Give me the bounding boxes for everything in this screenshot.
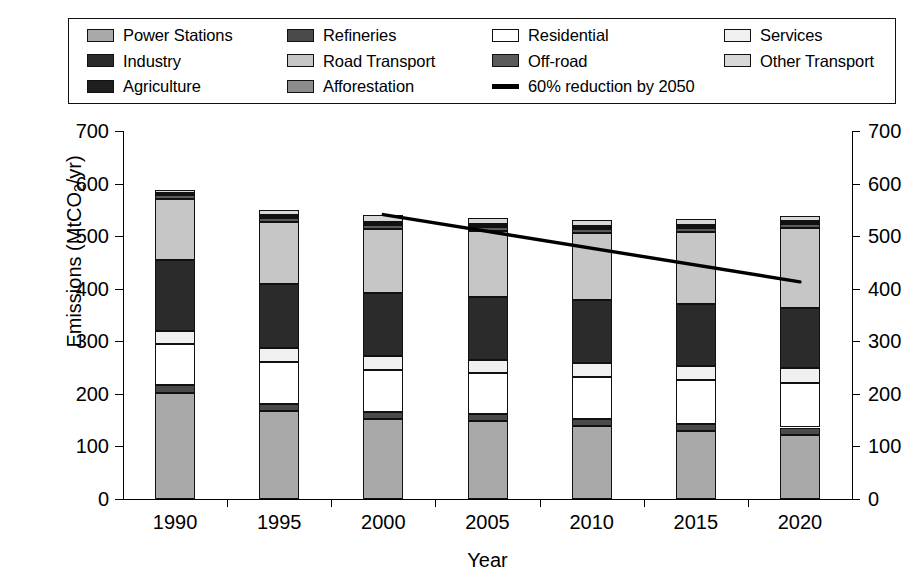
y-tick-label-right: 500 bbox=[868, 226, 901, 246]
bar-segment-afforestation bbox=[468, 224, 508, 226]
y-axis-left bbox=[123, 131, 124, 499]
legend-swatch-icon bbox=[87, 29, 114, 42]
y-tick-label-right: 100 bbox=[868, 436, 901, 456]
x-tick bbox=[644, 499, 645, 507]
bar-segment-industry bbox=[780, 308, 820, 367]
y-tick-right bbox=[852, 341, 860, 342]
bar-segment-services bbox=[259, 348, 299, 362]
y-tick-right bbox=[852, 499, 860, 500]
bar-segment-road-transport bbox=[468, 231, 508, 297]
bar-segment-road-transport bbox=[363, 229, 403, 293]
legend-item-residential[interactable]: Residential bbox=[492, 27, 724, 44]
bar-segment-other-transport bbox=[572, 220, 612, 225]
legend-swatch-icon bbox=[287, 54, 314, 67]
bar-segment-services bbox=[676, 366, 716, 380]
legend-item-refineries[interactable]: Refineries bbox=[287, 27, 492, 44]
y-tick-left bbox=[115, 131, 123, 132]
legend-item-power-stations[interactable]: Power Stations bbox=[87, 27, 287, 44]
bar-segment-off-road bbox=[572, 229, 612, 233]
x-tick bbox=[227, 499, 228, 507]
bar-segment-refineries bbox=[259, 404, 299, 411]
legend-grid: Power StationsRefineriesResidentialServi… bbox=[69, 19, 895, 103]
legend-item-services[interactable]: Services bbox=[724, 27, 895, 44]
bar-2005[interactable] bbox=[468, 131, 508, 499]
bar-segment-other-transport bbox=[155, 190, 195, 192]
legend-item-off-road[interactable]: Off-road bbox=[492, 53, 724, 70]
bar-segment-afforestation bbox=[363, 222, 403, 224]
bar-segment-refineries bbox=[572, 419, 612, 426]
bar-segment-road-transport bbox=[780, 228, 820, 308]
bar-segment-services bbox=[780, 368, 820, 383]
bar-segment-afforestation bbox=[155, 193, 195, 195]
x-tick bbox=[435, 499, 436, 507]
y-tick-left bbox=[115, 499, 123, 500]
legend-label: Services bbox=[760, 27, 822, 44]
bar-segment-power-stations bbox=[155, 393, 195, 499]
y-axis-title-sub: 2 bbox=[71, 184, 87, 192]
legend-label: Refineries bbox=[323, 27, 396, 44]
bar-segment-afforestation bbox=[780, 221, 820, 223]
bar-segment-off-road bbox=[468, 227, 508, 231]
chart-legend: Power StationsRefineriesResidentialServi… bbox=[68, 18, 896, 104]
x-tick-label-2010: 2010 bbox=[552, 512, 632, 532]
bar-segment-industry bbox=[676, 304, 716, 366]
y-tick-right bbox=[852, 394, 860, 395]
bar-segment-residential bbox=[572, 377, 612, 419]
legend-label: Road Transport bbox=[323, 53, 435, 70]
legend-swatch-icon bbox=[492, 54, 519, 67]
y-tick-label-left: 0 bbox=[98, 489, 109, 509]
legend-item-agriculture[interactable]: Agriculture bbox=[87, 78, 287, 95]
legend-label: Power Stations bbox=[123, 27, 233, 44]
legend-label: Agriculture bbox=[123, 78, 201, 95]
legend-item-industry[interactable]: Industry bbox=[87, 53, 287, 70]
bar-segment-residential bbox=[676, 380, 716, 424]
y-tick-left bbox=[115, 446, 123, 447]
legend-label: Afforestation bbox=[323, 78, 414, 95]
bar-segment-services bbox=[468, 360, 508, 373]
emissions-stacked-bar-chart: Power StationsRefineriesResidentialServi… bbox=[0, 0, 920, 582]
bar-2010[interactable] bbox=[572, 131, 612, 499]
legend-label: Off-road bbox=[528, 53, 587, 70]
bar-segment-road-transport bbox=[155, 199, 195, 259]
y-tick-label-right: 200 bbox=[868, 384, 901, 404]
y-tick-left bbox=[115, 184, 123, 185]
bar-segment-residential bbox=[259, 362, 299, 404]
legend-item-60-reduction-by-2050[interactable]: 60% reduction by 2050 bbox=[492, 78, 724, 95]
bar-1990[interactable] bbox=[155, 131, 195, 499]
x-tick-label-2000: 2000 bbox=[343, 512, 423, 532]
bar-segment-industry bbox=[363, 293, 403, 356]
bar-segment-other-transport bbox=[780, 216, 820, 221]
y-axis-title-pre: Emissions (MtCO bbox=[63, 192, 85, 348]
bar-segment-afforestation bbox=[572, 226, 612, 228]
legend-swatch-icon bbox=[724, 54, 751, 67]
legend-line-icon bbox=[492, 80, 519, 93]
legend-item-other-transport[interactable]: Other Transport bbox=[724, 53, 895, 70]
legend-swatch-icon bbox=[87, 54, 114, 67]
bar-2000[interactable] bbox=[363, 131, 403, 499]
legend-swatch-icon bbox=[492, 29, 519, 42]
y-axis-right bbox=[852, 131, 853, 499]
legend-swatch-icon bbox=[87, 80, 114, 93]
legend-item-afforestation[interactable]: Afforestation bbox=[287, 78, 492, 95]
bar-segment-other-transport bbox=[259, 210, 299, 215]
bar-segment-refineries bbox=[155, 385, 195, 393]
y-tick-left bbox=[115, 236, 123, 237]
bar-segment-residential bbox=[363, 370, 403, 412]
y-tick-label-right: 400 bbox=[868, 279, 901, 299]
bar-segment-residential bbox=[155, 344, 195, 385]
legend-label: Residential bbox=[528, 27, 609, 44]
bar-segment-refineries bbox=[363, 412, 403, 419]
bar-segment-refineries bbox=[780, 428, 820, 435]
legend-swatch-icon bbox=[287, 29, 314, 42]
bar-1995[interactable] bbox=[259, 131, 299, 499]
bar-segment-off-road bbox=[676, 228, 716, 232]
x-axis bbox=[123, 499, 852, 500]
legend-item-road-transport[interactable]: Road Transport bbox=[287, 53, 492, 70]
bar-2020[interactable] bbox=[780, 131, 820, 499]
bar-2015[interactable] bbox=[676, 131, 716, 499]
y-tick-left bbox=[115, 341, 123, 342]
y-tick-right bbox=[852, 131, 860, 132]
bar-segment-industry bbox=[155, 260, 195, 331]
x-tick bbox=[331, 499, 332, 507]
bar-segment-off-road bbox=[155, 195, 195, 199]
